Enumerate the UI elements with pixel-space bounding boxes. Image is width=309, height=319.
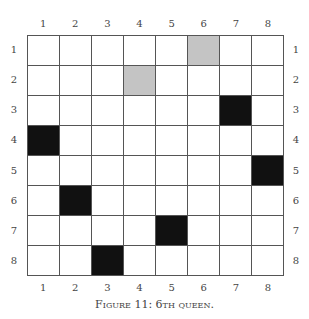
board-cell-r5-c2 xyxy=(60,156,92,186)
board-cell-r1-c2 xyxy=(60,36,92,66)
row-label-right-7: 7 xyxy=(286,225,306,237)
board-cell-r5-c7 xyxy=(220,156,252,186)
board-cell-r1-c5 xyxy=(156,36,188,66)
board-cell-r6-c5 xyxy=(156,186,188,216)
column-label-top-7: 7 xyxy=(226,18,246,30)
board-cell-r6-c7 xyxy=(220,186,252,216)
board-cell-r4-c2 xyxy=(60,126,92,156)
column-label-top-4: 4 xyxy=(129,18,149,30)
row-label-right-1: 1 xyxy=(286,44,306,56)
row-label-right-4: 4 xyxy=(286,134,306,146)
board-cell-r3-c3 xyxy=(92,96,124,126)
board-cell-r2-c2 xyxy=(60,66,92,96)
board-cell-r7-c4 xyxy=(124,216,156,246)
board-cell-r1-c3 xyxy=(92,36,124,66)
board-cell-r3-c2 xyxy=(60,96,92,126)
board-cell-r5-c4 xyxy=(124,156,156,186)
board-cell-r1-c8 xyxy=(252,36,284,66)
row-label-left-3: 3 xyxy=(4,104,24,116)
board-cell-r5-c1 xyxy=(28,156,60,186)
board-cell-r3-c8 xyxy=(252,96,284,126)
column-label-bottom-2: 2 xyxy=(65,282,85,294)
board-cell-r6-c3 xyxy=(92,186,124,216)
row-label-left-4: 4 xyxy=(4,134,24,146)
column-label-bottom-4: 4 xyxy=(129,282,149,294)
board-cell-r8-c6 xyxy=(188,246,220,276)
queen-cell-r5-c8 xyxy=(252,156,284,186)
queen-cell-r8-c3 xyxy=(92,246,124,276)
chess-board-grid xyxy=(27,35,284,276)
board-cell-r8-c5 xyxy=(156,246,188,276)
row-label-right-8: 8 xyxy=(286,255,306,267)
queen-cell-r3-c7 xyxy=(220,96,252,126)
column-label-bottom-3: 3 xyxy=(97,282,117,294)
board-cell-r5-c6 xyxy=(188,156,220,186)
column-label-top-2: 2 xyxy=(65,18,85,30)
board-cell-r4-c7 xyxy=(220,126,252,156)
board-cell-r8-c7 xyxy=(220,246,252,276)
board-cell-r3-c6 xyxy=(188,96,220,126)
board-cell-r3-c4 xyxy=(124,96,156,126)
board-cell-r8-c1 xyxy=(28,246,60,276)
board-cell-r4-c4 xyxy=(124,126,156,156)
column-label-top-5: 5 xyxy=(162,18,182,30)
row-label-left-6: 6 xyxy=(4,195,24,207)
figure-caption: Figure 11: 6th queen. xyxy=(0,298,309,311)
board-cell-r6-c1 xyxy=(28,186,60,216)
board-cell-r8-c8 xyxy=(252,246,284,276)
board-cell-r2-c8 xyxy=(252,66,284,96)
column-label-top-8: 8 xyxy=(258,18,278,30)
row-label-left-1: 1 xyxy=(4,44,24,56)
board-cell-r4-c8 xyxy=(252,126,284,156)
row-label-left-5: 5 xyxy=(4,165,24,177)
board-cell-r5-c5 xyxy=(156,156,188,186)
queen-cell-r4-c1 xyxy=(28,126,60,156)
queen-cell-r7-c5 xyxy=(156,216,188,246)
column-label-bottom-6: 6 xyxy=(194,282,214,294)
column-label-bottom-1: 1 xyxy=(33,282,53,294)
board-cell-r1-c1 xyxy=(28,36,60,66)
column-label-top-1: 1 xyxy=(33,18,53,30)
board-cell-r7-c1 xyxy=(28,216,60,246)
row-label-right-6: 6 xyxy=(286,195,306,207)
row-label-right-3: 3 xyxy=(286,104,306,116)
board-cell-r6-c6 xyxy=(188,186,220,216)
column-label-bottom-8: 8 xyxy=(258,282,278,294)
board-cell-r2-c3 xyxy=(92,66,124,96)
board-cell-r3-c1 xyxy=(28,96,60,126)
row-label-right-2: 2 xyxy=(286,74,306,86)
board-cell-r7-c7 xyxy=(220,216,252,246)
row-label-left-8: 8 xyxy=(4,255,24,267)
board-cell-r7-c2 xyxy=(60,216,92,246)
board-cell-r7-c6 xyxy=(188,216,220,246)
board-cell-r4-c3 xyxy=(92,126,124,156)
board-cell-r2-c7 xyxy=(220,66,252,96)
board-cell-r2-c6 xyxy=(188,66,220,96)
row-label-left-2: 2 xyxy=(4,74,24,86)
board-cell-r1-c4 xyxy=(124,36,156,66)
board-cell-r6-c8 xyxy=(252,186,284,216)
board-cell-r4-c6 xyxy=(188,126,220,156)
column-label-top-3: 3 xyxy=(97,18,117,30)
board-cell-r8-c4 xyxy=(124,246,156,276)
board-cell-r1-c7 xyxy=(220,36,252,66)
board-cell-r5-c3 xyxy=(92,156,124,186)
board-cell-r7-c3 xyxy=(92,216,124,246)
board-cell-r2-c1 xyxy=(28,66,60,96)
row-label-left-7: 7 xyxy=(4,225,24,237)
board-cell-r2-c5 xyxy=(156,66,188,96)
board-cell-r8-c2 xyxy=(60,246,92,276)
queen-cell-r6-c2 xyxy=(60,186,92,216)
board-cell-r3-c5 xyxy=(156,96,188,126)
column-label-bottom-7: 7 xyxy=(226,282,246,294)
row-label-right-5: 5 xyxy=(286,165,306,177)
column-label-top-6: 6 xyxy=(194,18,214,30)
column-label-bottom-5: 5 xyxy=(162,282,182,294)
board-cell-r7-c8 xyxy=(252,216,284,246)
shaded-cell-r2-c4 xyxy=(124,66,156,96)
shaded-cell-r1-c6 xyxy=(188,36,220,66)
board-cell-r6-c4 xyxy=(124,186,156,216)
board-cell-r4-c5 xyxy=(156,126,188,156)
